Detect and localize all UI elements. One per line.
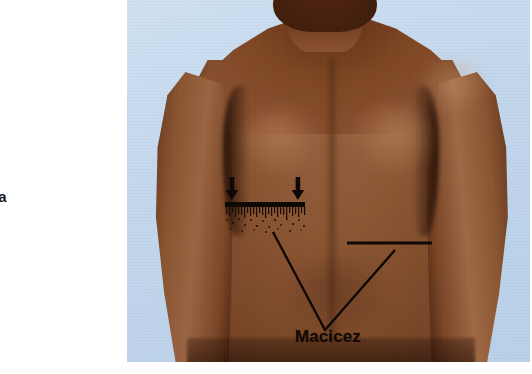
dullness-vee-outline — [273, 232, 395, 330]
annotation-overlay — [127, 0, 532, 362]
arrow-down-right-icon — [292, 177, 305, 200]
page-bottom-margin — [0, 362, 532, 374]
anatomical-photograph: Macicez — [127, 0, 532, 362]
caption-margin: ia — [0, 0, 127, 374]
arrow-down-left-icon — [226, 177, 239, 200]
caption-text-fragment: ia — [0, 188, 7, 205]
stipple-shading — [226, 207, 305, 233]
